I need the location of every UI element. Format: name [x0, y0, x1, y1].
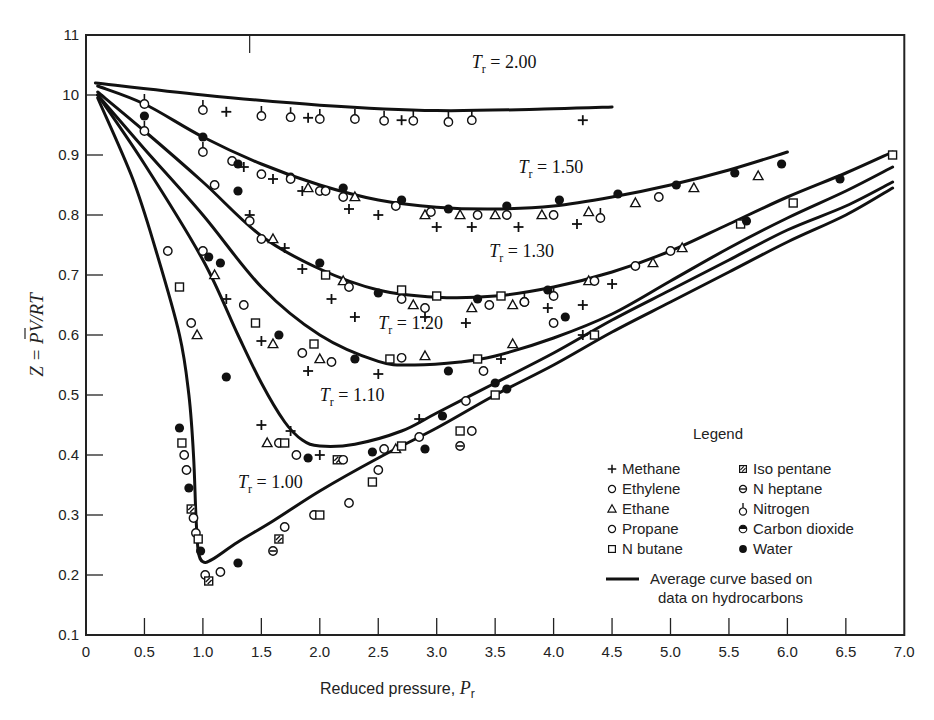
marker-circle: [345, 499, 353, 507]
marker-circle: [345, 283, 353, 291]
marker-triangle: [631, 198, 641, 207]
marker-water: [274, 330, 283, 339]
marker-water: [184, 483, 193, 492]
legend-item-methane: Methane: [608, 460, 681, 477]
marker-circle: [479, 367, 487, 375]
y-tick-label: 0.5: [58, 386, 79, 403]
marker-water: [204, 252, 213, 261]
legend-item-n-heptane: N heptane: [739, 480, 822, 497]
marker-water: [198, 132, 207, 141]
marker-water: [374, 288, 383, 297]
y-tick-label: 0.8: [58, 206, 79, 223]
marker-water: [175, 423, 184, 432]
marker-circle: [182, 466, 190, 474]
marker-plus: [268, 174, 278, 184]
marker-circle: [187, 319, 195, 327]
marker-circle: [462, 397, 470, 405]
marker-water: [491, 378, 500, 387]
x-tick-label: 1.5: [251, 643, 272, 660]
marker-nitrogen: [199, 100, 207, 114]
marker-water: [672, 180, 681, 189]
y-axis-title: Z = PV/RT: [25, 292, 47, 377]
marker-plus: [327, 294, 337, 304]
x-axis-title-text: Reduced pressure,: [320, 680, 460, 697]
marker-triangle: [315, 354, 325, 363]
marker-square: [433, 292, 441, 300]
legend-label: data on hydrocarbons: [658, 589, 803, 606]
marker-plus: [608, 465, 617, 474]
y-tick-label: 0.7: [58, 266, 79, 283]
marker-plus: [221, 107, 231, 117]
marker-circle: [631, 262, 639, 270]
marker-plus: [397, 115, 407, 125]
legend-label: Methane: [622, 460, 680, 477]
curve-label-tr-130: Tr = 1.30: [489, 241, 554, 265]
marker-nitrogen: [351, 109, 359, 123]
marker-circle: [298, 349, 306, 357]
marker-water: [233, 186, 242, 195]
marker-plus: [344, 204, 354, 214]
marker-water: [739, 545, 747, 553]
marker-triangle: [467, 303, 477, 312]
legend-label: Average curve based on: [650, 570, 812, 587]
curve-tr-200: [95, 83, 612, 111]
marker-square: [456, 427, 464, 435]
marker-square: [491, 391, 499, 399]
x-tick-label: 2.0: [309, 643, 330, 660]
marker-circle: [339, 193, 347, 201]
marker-circle: [216, 568, 224, 576]
marker-circle: [380, 445, 388, 453]
marker-square: [322, 271, 330, 279]
marker-circle: [281, 523, 289, 531]
marker-heptane: [269, 547, 277, 555]
marker-water: [561, 312, 570, 321]
marker-nitrogen: [409, 111, 417, 125]
curve-label-tr-100: Tr = 1.00: [238, 472, 303, 496]
curve-tr-120: [98, 95, 893, 365]
marker-circle: [189, 514, 197, 522]
y-tick-label: 0.4: [58, 446, 79, 463]
legend-label: Propane: [622, 520, 679, 537]
x-tick-label: 4.5: [602, 643, 623, 660]
marker-triangle: [303, 183, 313, 192]
marker-water: [304, 453, 313, 462]
marker-triangle: [455, 210, 465, 219]
legend-title: Legend: [693, 425, 743, 442]
marker-circle: [549, 211, 557, 219]
marker-water: [196, 546, 205, 555]
marker-plus: [578, 115, 588, 125]
legend-label: Ethylene: [622, 480, 680, 497]
marker-circle: [257, 235, 265, 243]
marker-nitrogen: [199, 142, 207, 156]
marker-triangle: [584, 207, 594, 216]
marker-water: [777, 159, 786, 168]
marker-square: [609, 546, 616, 553]
marker-plus: [297, 264, 307, 274]
marker-circle: [246, 217, 254, 225]
marker-circle: [397, 354, 405, 362]
marker-water: [233, 558, 242, 567]
marker-square: [497, 292, 505, 300]
y-tick-label: 10: [62, 86, 79, 103]
x-tick-label: 2.5: [368, 643, 389, 660]
marker-plus: [303, 113, 313, 123]
marker-water: [350, 354, 359, 363]
legend-item-water: Water: [739, 540, 792, 557]
curve-label-tr-200: Tr = 2.00: [472, 52, 537, 76]
marker-circle: [327, 358, 335, 366]
legend-item-ethylene: Ethylene: [608, 480, 680, 497]
legend-item-nitrogen: Nitrogen: [739, 500, 809, 517]
marker-square: [386, 355, 394, 363]
marker-plus: [350, 312, 360, 322]
x-tick-label: 1.0: [192, 643, 213, 660]
y-tick-label: 11: [63, 26, 79, 43]
marker-plus: [467, 222, 477, 232]
marker-circle: [292, 451, 300, 459]
marker-triangle: [268, 339, 278, 348]
legend-label: Ethane: [622, 500, 670, 517]
marker-iso: [187, 505, 195, 513]
marker-plus: [432, 222, 442, 232]
marker-iso: [275, 535, 283, 543]
marker-heptane: [456, 442, 464, 450]
marker-water: [420, 444, 429, 453]
